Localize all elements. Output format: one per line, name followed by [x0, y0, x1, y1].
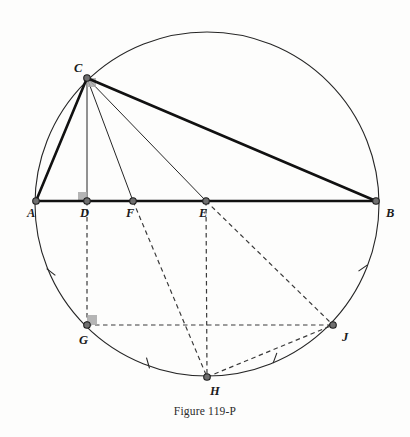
point-marker-E — [203, 198, 210, 205]
point-marker-D — [84, 198, 91, 205]
point-marker-B — [373, 198, 380, 205]
point-label-F: F — [125, 206, 135, 220]
point-label-B: B — [385, 206, 394, 220]
point-label-J: J — [341, 330, 349, 344]
point-label-E: E — [198, 206, 207, 220]
geometry-figure: ACDFEBGHJ Figure 119-P — [0, 0, 410, 437]
segment-EJ — [206, 201, 333, 325]
segment-HJ — [207, 325, 333, 377]
segment-FH — [133, 201, 207, 377]
arc-tick-AG — [47, 269, 56, 276]
arc-tick-GH — [146, 358, 149, 369]
segment-CF — [87, 78, 133, 201]
point-marker-H — [204, 374, 211, 381]
segment-EH — [206, 201, 207, 377]
thin-segments-layer — [87, 78, 206, 201]
point-label-D: D — [79, 206, 89, 220]
point-labels-layer: ACDFEBGHJ — [26, 61, 394, 398]
point-label-C: C — [74, 61, 83, 75]
point-label-A: A — [26, 206, 35, 220]
point-marker-C — [84, 75, 91, 82]
point-marker-F — [130, 198, 137, 205]
point-label-H: H — [209, 384, 221, 398]
point-label-G: G — [79, 333, 88, 347]
segment-CE — [87, 78, 206, 201]
segment-AC — [36, 78, 87, 201]
point-marker-J — [330, 322, 337, 329]
figure-canvas: ACDFEBGHJ — [0, 0, 410, 437]
segment-CB — [87, 78, 376, 201]
point-marker-G — [84, 322, 91, 329]
point-marker-A — [33, 198, 40, 205]
figure-caption: Figure 119-P — [0, 405, 410, 417]
